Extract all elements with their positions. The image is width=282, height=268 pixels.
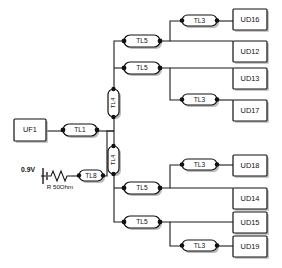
ud13-label: UD13 [241, 74, 260, 83]
wire-tl4l-bottom [114, 174, 124, 222]
tl3-17-pin-right [215, 97, 220, 102]
resistor-label: R 50Ohm [47, 183, 73, 190]
tl3-17-label: TL3 [194, 96, 206, 103]
resistor-zigzag [48, 171, 72, 181]
tl8-pin-right [101, 173, 105, 177]
load-ud13[interactable]: UD13 [233, 68, 269, 91]
uf1-label: UF1 [23, 125, 37, 134]
tl8-pin-left [77, 173, 81, 177]
line-tl5-lower-1[interactable]: TL5 [122, 182, 163, 196]
tl4-upper-pin-bottom [111, 115, 115, 119]
ud15-label: UD15 [241, 218, 260, 227]
tl4-lower-pin-bottom [111, 172, 115, 176]
line-tl4-lower[interactable]: TL4 [108, 144, 121, 176]
voltage-source[interactable]: 0.9V [21, 166, 47, 184]
line-tl5-lower-2[interactable]: TL5 [122, 216, 163, 230]
load-ud16[interactable]: UD16 [233, 9, 269, 32]
tl3-18-label: TL3 [194, 161, 206, 168]
tl5-u2-pin-left [122, 66, 127, 71]
load-ud18[interactable]: UD18 [233, 155, 269, 178]
tl3-16-label: TL3 [194, 17, 206, 24]
line-tl5-upper-1[interactable]: TL5 [122, 35, 163, 49]
ud18-label: UD18 [241, 161, 260, 170]
line-tl3-ud18[interactable]: TL3 [180, 159, 220, 172]
tl1-pin-left [61, 128, 66, 133]
tl5-l2-label: TL5 [136, 218, 148, 225]
tl4-upper-pin-top [111, 87, 115, 91]
line-tl3-ud16[interactable]: TL3 [180, 15, 220, 28]
line-tl3-ud17[interactable]: TL3 [180, 94, 220, 107]
tl5-u1-pin-left [122, 39, 127, 44]
tl3-16-pin-right [215, 18, 220, 23]
load-ud14[interactable]: UD14 [233, 188, 269, 211]
tl3-19-pin-left [180, 243, 185, 248]
tl3-19-label: TL3 [194, 242, 206, 249]
wire-b4-stub19 [160, 222, 182, 246]
wire-b3-stub18 [160, 165, 182, 188]
tl5-l1-pin-left [122, 186, 127, 191]
tl1-pin-right [95, 128, 100, 133]
voltage-label: 0.9V [21, 166, 35, 173]
resistor-50ohm[interactable]: R 50Ohm [47, 171, 73, 190]
line-tl5-upper-2[interactable]: TL5 [122, 62, 163, 76]
tl5-l2-pin-right [158, 220, 163, 225]
tl4-lower-label: TL4 [109, 154, 116, 165]
ud12-label: UD12 [241, 47, 260, 56]
tl3-18-pin-left [180, 162, 185, 167]
tl5-l2-pin-left [122, 220, 127, 225]
ud17-label: UD17 [241, 106, 260, 115]
tl5-u1-pin-right [158, 39, 163, 44]
ud19-label: UD19 [241, 242, 260, 251]
schematic-canvas: UF1 0.9V R 50Ohm TL1 TL8 TL4 [0, 0, 282, 268]
wire-tl4u-top [114, 41, 124, 89]
tl3-17-pin-left [180, 97, 185, 102]
line-tl4-upper[interactable]: TL4 [108, 87, 121, 119]
tl4-upper-label: TL4 [109, 97, 116, 108]
tl5-l1-label: TL5 [136, 184, 148, 191]
source-uf1[interactable]: UF1 [14, 119, 48, 143]
tl5-u1-label: TL5 [136, 37, 148, 44]
wire-b1-stub16 [160, 21, 182, 41]
line-tl8[interactable]: TL8 [77, 170, 105, 183]
tl3-16-pin-left [180, 18, 185, 23]
tl1-label: TL1 [74, 126, 86, 133]
tl3-18-pin-right [215, 162, 220, 167]
tl4-lower-pin-top [111, 144, 115, 148]
tl5-u2-label: TL5 [136, 64, 148, 71]
tl5-l1-pin-right [158, 186, 163, 191]
load-ud17[interactable]: UD17 [233, 100, 269, 123]
ud14-label: UD14 [241, 194, 260, 203]
line-tl3-ud19[interactable]: TL3 [180, 240, 220, 253]
tl3-19-pin-right [215, 243, 220, 248]
wire-b2-stub17 [160, 68, 182, 100]
load-ud19[interactable]: UD19 [233, 236, 269, 259]
load-ud15[interactable]: UD15 [233, 212, 269, 235]
ud16-label: UD16 [241, 15, 260, 24]
tl8-label: TL8 [85, 172, 97, 179]
load-ud12[interactable]: UD12 [233, 41, 269, 64]
line-tl1[interactable]: TL1 [61, 124, 100, 138]
tl5-u2-pin-right [158, 66, 163, 71]
